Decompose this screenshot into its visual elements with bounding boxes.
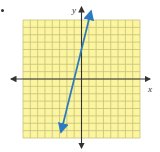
y-axis-label: y [71, 5, 76, 15]
coordinate-plane: x y [0, 0, 160, 152]
x-axis-label: x [147, 84, 152, 94]
